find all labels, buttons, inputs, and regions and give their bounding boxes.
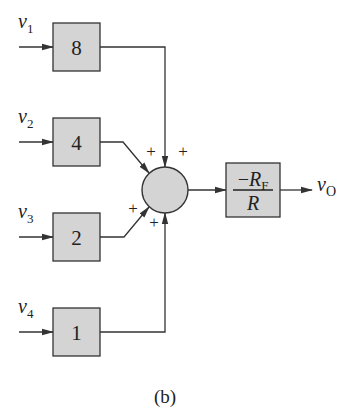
input-v3-label: v3 [18, 200, 33, 226]
gain-value-1: 1 [71, 321, 82, 345]
gain-value-4: 4 [71, 131, 82, 155]
input-v2-label: v2 [18, 105, 33, 131]
summing-junction [142, 167, 188, 213]
sum-sign-v2: + [146, 142, 156, 161]
input-v2: v2 4 [18, 105, 149, 173]
output-label: vO [317, 173, 336, 199]
sum-sign-v3: + [128, 199, 138, 218]
figure-caption: (b) [154, 386, 176, 408]
gain-value-2: 2 [71, 226, 82, 250]
input-v1-label: v1 [18, 10, 33, 36]
sum-sign-v4: + [149, 213, 159, 232]
gain-value-8: 8 [71, 36, 82, 60]
input-v4-label: v4 [18, 295, 34, 321]
gain-denominator: R [246, 192, 259, 214]
sum-sign-v1: + [178, 142, 188, 161]
wire-v3-to-sum [100, 207, 149, 237]
wire-v2-to-sum [100, 142, 149, 173]
